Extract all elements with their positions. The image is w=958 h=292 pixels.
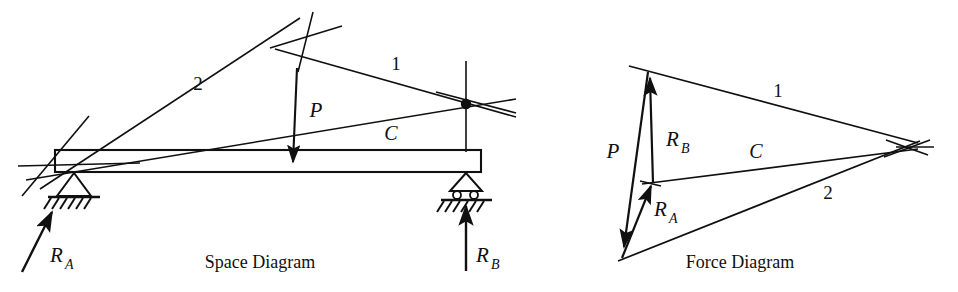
pin-support-a [44,173,100,209]
space-reaction-rb-label-sub: B [491,257,500,272]
force-ray-1-label: 1 [773,80,783,101]
force-ray-2-label: 2 [823,182,833,203]
space-reaction-ra-label: R A [49,243,74,272]
space-reaction-rb-label-main: R [475,243,489,267]
figure-canvas: 2 1 C P R A R B Space Diagram [0,0,958,292]
space-reaction-ra-label-main: R [49,243,63,267]
space-diagram-caption: Space Diagram [205,252,315,272]
force-vector-p-label: P [606,139,620,163]
force-vector-rb-arrow [650,78,653,183]
space-reaction-ra-label-sub: A [64,257,74,272]
engineering-diagram-svg: 2 1 C P R A R B Space Diagram [0,0,958,292]
force-vector-ra-label-main: R [653,197,667,221]
force-vector-rb-label-sub: B [681,141,690,156]
space-load-p-label: P [309,98,323,122]
space-string-c-label: C [384,122,398,144]
space-ray-2-label: 2 [193,73,203,94]
space-reaction-rb-label: R B [475,243,500,272]
roller-support-b [437,173,492,212]
beam-rect [55,150,481,172]
reaction-ra-arrow [22,212,52,272]
apex-cross-arm-b [270,26,342,48]
space-diagram-group: 2 1 C P R A R B Space Diagram [18,12,516,272]
load-p-arrow [293,68,297,162]
space-ray-1-label: 1 [391,53,401,74]
ray-2-line [40,18,300,189]
force-vector-rb-label-main: R [665,127,679,151]
force-diagram-group: 1 C 2 P R B R A Force Diagram [606,66,934,272]
force-vector-rb-label: R B [665,127,690,156]
force-vector-ra-label: R A [653,197,678,226]
force-diagram-caption: Force Diagram [686,252,794,272]
ray-intersection-node-dot [461,99,471,109]
apex-cross-arm-a [298,12,313,72]
force-ray-c-label: C [749,140,763,162]
force-vector-ra-label-sub: A [668,211,678,226]
string-c-line [26,99,516,180]
